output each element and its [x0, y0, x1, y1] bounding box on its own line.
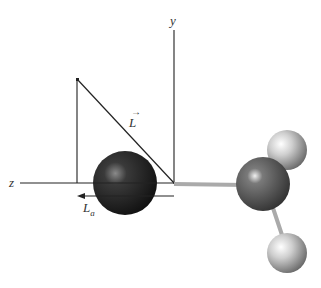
molecule-diagram [0, 0, 321, 288]
central-atom-sphere [236, 157, 290, 211]
bond-to-central [174, 184, 245, 185]
y-axis-label: y [170, 13, 176, 29]
L-a-label: La [83, 200, 95, 218]
arrowhead-icon [77, 193, 85, 199]
L-vector-label: → L [129, 115, 136, 131]
lower-light-atom [267, 233, 307, 273]
bond-to-lower-h [272, 205, 283, 238]
z-axis-label: z [9, 175, 14, 191]
